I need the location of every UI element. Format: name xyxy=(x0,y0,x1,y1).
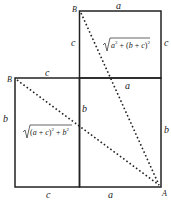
label-right-b: b xyxy=(164,124,169,135)
label-middle-a: a xyxy=(125,80,130,91)
formula-left-diagonal: (a + c)2 + b2 xyxy=(23,125,72,138)
label-top-right-c: c xyxy=(164,37,169,48)
label-top-left-c: c xyxy=(71,37,76,48)
label-top-a: a xyxy=(116,0,121,11)
formula-top-diagonal: a2 + (b + c)2 xyxy=(103,38,150,51)
label-left-b: b xyxy=(3,113,8,124)
right-lower-rectangle xyxy=(80,78,162,187)
label-middle-b: b xyxy=(82,103,87,114)
geometry-diagram: B B A a c c c a b b b c a a2 + (b + c)2 … xyxy=(0,0,171,201)
diagonal-top-b-to-a xyxy=(81,13,159,185)
point-b-top: B xyxy=(72,5,77,14)
label-left-top-c: c xyxy=(45,67,50,78)
point-a: A xyxy=(161,189,167,198)
label-bottom-a: a xyxy=(108,189,113,200)
label-bottom-c: c xyxy=(46,189,51,200)
svg-text:a2 + (b + c)2: a2 + (b + c)2 xyxy=(111,40,150,50)
svg-text:(a + c)2 + b2: (a + c)2 + b2 xyxy=(30,127,69,137)
point-b-left: B xyxy=(7,75,12,84)
